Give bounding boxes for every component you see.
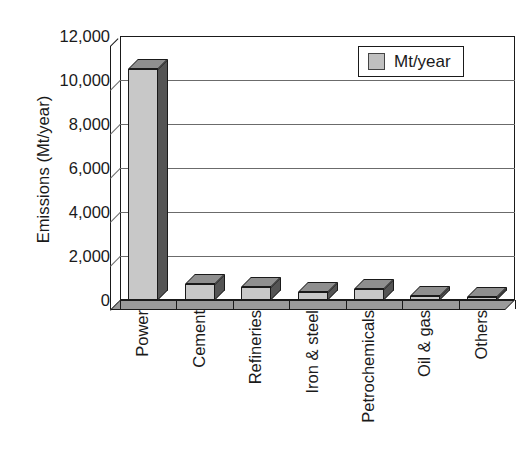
y-tick-label: 2,000 (34, 248, 110, 265)
gridline (120, 212, 515, 213)
x-axis-label: Cement (191, 310, 208, 368)
emissions-bar-chart: Emissions (Mt/year) 02,0004,0006,0008,00… (0, 0, 527, 474)
x-tick-mark (459, 300, 460, 309)
y-axis-tick-labels: 02,0004,0006,0008,00010,00012,000 (34, 25, 110, 315)
x-tick-mark (515, 300, 516, 309)
legend: Mt/year (358, 46, 464, 77)
x-axis-label: Others (473, 310, 490, 360)
bar (185, 284, 215, 300)
x-tick-mark (402, 300, 403, 309)
bar-front-face (241, 287, 271, 300)
x-axis-label: Petrochemicals (360, 310, 377, 423)
x-tick-mark (289, 300, 290, 309)
gridline (120, 256, 515, 257)
x-axis-label: Oil & gas (416, 310, 433, 377)
bar-front-face (128, 69, 158, 300)
y-tick-label: 4,000 (34, 204, 110, 221)
bar (128, 69, 158, 300)
bar (298, 292, 328, 300)
x-axis-label: Power (134, 310, 151, 357)
legend-swatch-icon (368, 53, 385, 70)
x-axis-labels: PowerCementRefineriesIron & steelPetroch… (120, 310, 515, 470)
x-tick-mark (233, 300, 234, 309)
gridline (120, 168, 515, 169)
bar-side-face (158, 59, 168, 300)
x-tick-mark (176, 300, 177, 309)
bar (241, 287, 271, 300)
gridline (120, 80, 515, 81)
x-tick-mark (346, 300, 347, 309)
bar-front-face (298, 292, 328, 300)
legend-label: Mt/year (394, 53, 451, 70)
y-tick-label: 12,000 (34, 28, 110, 45)
y-tick-label: 6,000 (34, 160, 110, 177)
y-tick-label: 8,000 (34, 116, 110, 133)
x-axis-tick-marks (120, 300, 515, 310)
bar (354, 289, 384, 300)
bar-front-face (185, 284, 215, 300)
x-axis-label: Iron & steel (304, 310, 321, 393)
bar-front-face (354, 289, 384, 300)
y-tick-label: 0 (34, 292, 110, 309)
gridline (120, 124, 515, 125)
x-tick-mark (120, 300, 121, 309)
y-tick-label: 10,000 (34, 72, 110, 89)
x-axis-label: Refineries (247, 310, 264, 384)
